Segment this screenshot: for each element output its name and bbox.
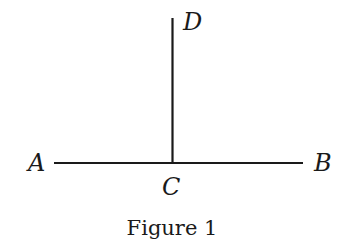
point-label-d: D <box>182 8 202 36</box>
point-label-c: C <box>162 173 180 201</box>
figure-caption: Figure 1 <box>127 216 218 240</box>
point-label-a: A <box>26 149 45 177</box>
point-label-b: B <box>313 149 332 177</box>
figure-canvas: A B C D Figure 1 <box>0 0 346 240</box>
